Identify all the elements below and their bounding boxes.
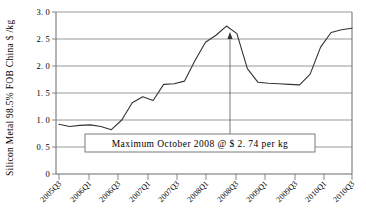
y-tick-label-1-0: 1. 0 xyxy=(36,115,50,125)
y-tick-label-2-5: 2. 5 xyxy=(36,34,50,44)
x-tick-label-2006q3: 2006Q3 xyxy=(97,179,122,204)
x-tick-label-2007q3: 2007Q3 xyxy=(156,179,181,204)
peak-arrow-icon xyxy=(227,32,232,39)
x-tick-label-2009q3: 2009Q3 xyxy=(274,179,299,204)
x-tick-label-2008q3: 2008Q3 xyxy=(215,179,240,204)
y-tick-label-1-5: 1. 5 xyxy=(36,88,50,98)
x-tick-label-2008q1: 2008Q1 xyxy=(185,179,210,204)
y-tick-label-2-0: 2. 0 xyxy=(36,61,50,71)
y-tick-labels: 3. 0 2. 5 2. 0 1. 5 1. 0 0. 5 0 xyxy=(36,7,50,179)
peak-pointer xyxy=(227,32,232,134)
x-tick-marks xyxy=(59,174,352,180)
data-series-line xyxy=(59,26,352,130)
y-axis-label-text: Silicon Metal 98.5% FOB China $ /kg xyxy=(5,20,15,176)
y-tick-label-0: 0 xyxy=(46,169,50,179)
y-axis-label: Silicon Metal 98.5% FOB China $ /kg xyxy=(5,20,15,176)
y-tick-label-0-5: 0. 5 xyxy=(36,142,50,152)
y-tick-marks xyxy=(52,12,56,174)
x-tick-labels: 2005Q3 2006Q1 2006Q3 2007Q1 2007Q3 2008Q… xyxy=(38,179,356,204)
y-tick-label-3-0: 3. 0 xyxy=(36,7,50,17)
x-tick-label-2010q1: 2010Q1 xyxy=(303,179,328,204)
x-tick-label-2007q1: 2007Q1 xyxy=(127,179,152,204)
x-tick-label-2010q3: 2010Q3 xyxy=(331,179,356,204)
annotation-callout: Maximum October 2008 @ $ 2. 74 per kg xyxy=(85,134,315,152)
annotation-label: Maximum October 2008 @ $ 2. 74 per kg xyxy=(112,139,289,149)
line-chart: Silicon Metal 98.5% FOB China $ /kg xyxy=(0,0,366,220)
x-tick-label-2006q1: 2006Q1 xyxy=(68,179,93,204)
x-tick-label-2005q3: 2005Q3 xyxy=(38,179,63,204)
x-tick-label-2009q1: 2009Q1 xyxy=(244,179,269,204)
chart-container: Silicon Metal 98.5% FOB China $ /kg xyxy=(0,0,366,220)
